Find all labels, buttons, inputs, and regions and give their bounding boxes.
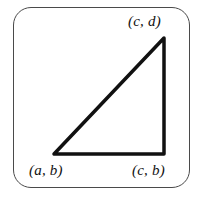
figure-frame-border	[13, 7, 190, 188]
vertex-label-bottom-right: (c, b)	[132, 163, 165, 178]
vertex-label-bottom-left: (a, b)	[29, 163, 63, 178]
vertex-label-apex: (c, d)	[128, 14, 161, 29]
figure-container: (c, d) (a, b) (c, b)	[0, 0, 203, 199]
